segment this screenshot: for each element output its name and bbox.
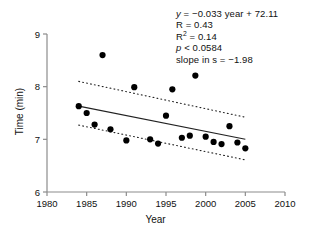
x-tick-label: 1985 <box>76 198 97 209</box>
data-point <box>163 113 169 119</box>
data-point <box>84 110 90 116</box>
y-axis-title: Time (min) <box>14 57 25 167</box>
data-point <box>155 140 161 146</box>
data-point <box>226 123 232 129</box>
x-axis-title: Year <box>0 214 311 225</box>
data-point <box>192 73 198 79</box>
x-tick-label: 1990 <box>116 198 137 209</box>
data-point <box>211 139 217 145</box>
data-point <box>99 52 105 58</box>
x-tick-label: 1980 <box>36 198 57 209</box>
statistics-annotation: y = −0.033 year + 72.11 R = 0.43 R2 = 0.… <box>176 8 278 65</box>
data-point <box>242 145 248 151</box>
x-axis-ticks: 1980198519901995200020052010 <box>36 192 295 209</box>
y-axis-ticks: 6789 <box>35 29 47 198</box>
y-tick-label: 6 <box>35 187 40 198</box>
x-tick-label: 2010 <box>274 198 295 209</box>
data-point <box>218 141 224 147</box>
annotation-r-squared-symbol: R <box>176 31 183 42</box>
annotation-r-squared: R2 = 0.14 <box>176 31 278 42</box>
data-point <box>107 126 113 132</box>
annotation-p-body: < 0.0584 <box>181 42 222 53</box>
data-point-series <box>76 52 249 151</box>
confidence-band-upper <box>79 81 246 117</box>
annotation-p-value: p < 0.0584 <box>176 42 278 53</box>
data-point <box>92 121 98 127</box>
annotation-r: R = 0.43 <box>176 19 278 30</box>
data-point <box>169 86 175 92</box>
confidence-band-upper-line <box>79 81 246 117</box>
annotation-equation: y = −0.033 year + 72.11 <box>176 8 278 19</box>
data-point <box>131 84 137 90</box>
data-point <box>203 134 209 140</box>
x-tick-label: 2005 <box>235 198 256 209</box>
y-tick-label: 9 <box>35 29 40 40</box>
regression-line <box>79 106 246 139</box>
data-point <box>187 133 193 139</box>
x-tick-label: 1995 <box>155 198 176 209</box>
annotation-equation-body: = −0.033 year + 72.11 <box>181 8 278 19</box>
y-tick-label: 8 <box>35 81 40 92</box>
data-point <box>123 137 129 143</box>
data-point <box>234 139 240 145</box>
annotation-slope: slope in s = −1.98 <box>176 54 278 65</box>
data-point <box>76 103 82 109</box>
data-point <box>147 136 153 142</box>
y-tick-label: 7 <box>35 134 40 145</box>
x-tick-label: 2000 <box>195 198 216 209</box>
data-point <box>179 135 185 141</box>
regression-trend-line <box>79 106 246 139</box>
annotation-r-squared-value: = 0.14 <box>187 31 217 42</box>
scatter-plot-figure: 6789 1980198519901995200020052010 y = −0… <box>0 0 311 235</box>
